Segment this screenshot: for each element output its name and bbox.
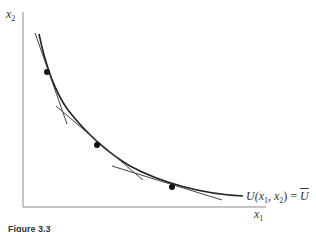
curve-label-prefix: U(x — [246, 189, 264, 203]
figure-caption: Figure 3.3 — [8, 224, 51, 232]
curve-label-suffix: ) = — [283, 189, 300, 203]
curve-label: U(x1, x2) = U — [246, 190, 309, 205]
curve-label-mid: , x — [268, 189, 279, 203]
x-axis-label: x1 — [254, 208, 263, 223]
tangency-point-2 — [94, 142, 100, 148]
y-axis-label: x2 — [6, 8, 15, 23]
tangency-point-3 — [169, 184, 175, 190]
tangent-line-3 — [112, 166, 222, 200]
indifference-curve — [39, 34, 243, 196]
tangent-line-2 — [56, 106, 143, 180]
x-axis-sub: 1 — [259, 214, 263, 223]
curve-label-value: U — [300, 189, 309, 203]
y-axis-sub: 2 — [11, 14, 15, 23]
tangency-point-1 — [44, 69, 50, 75]
tangent-line-1 — [35, 33, 67, 124]
